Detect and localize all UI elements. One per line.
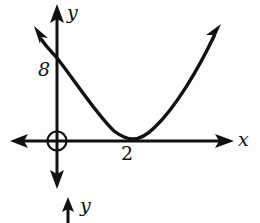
y-intercept-tick-label: 8 [38,60,50,79]
graph-figure: y x 8 2 y [0,0,260,223]
y-axis-label: y [67,3,78,22]
parabola-curve [41,36,214,139]
graph-canvas [0,0,260,223]
x-axis-label: x [238,130,249,149]
curve-right-arrow-icon [206,24,221,42]
x-intercept-tick-label: 2 [121,144,133,163]
bottom-partial-y-axis-label: y [80,196,91,215]
